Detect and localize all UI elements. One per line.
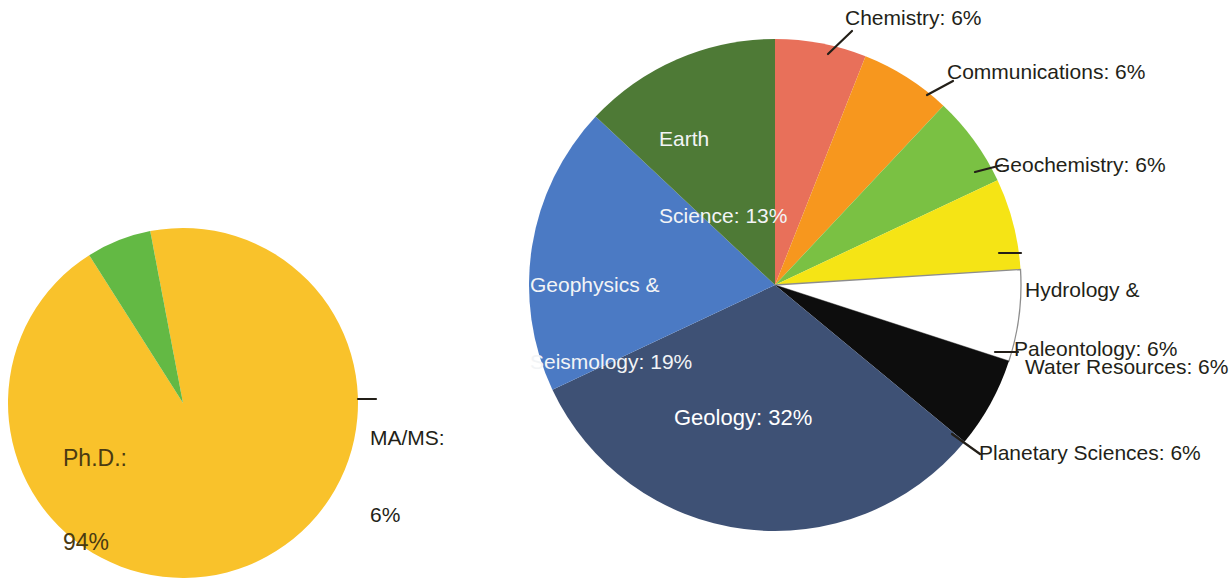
discipline-pie-chart	[529, 39, 1021, 531]
figure-container: Ph.D.: 94% MA/MS: 6% Chemistry: 6% Commu…	[0, 0, 1231, 583]
pie-slice-ph-d	[8, 228, 358, 578]
leader-communications	[927, 81, 953, 95]
degree-pie-chart	[8, 228, 358, 578]
pie-charts-svg	[0, 0, 1231, 583]
